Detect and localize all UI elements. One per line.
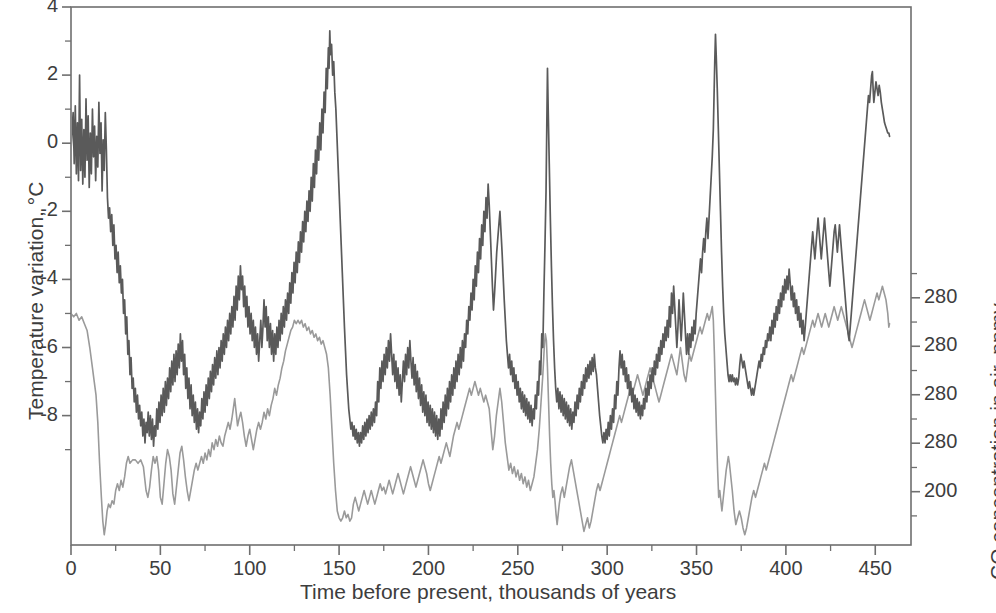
x-tick-label: 100 — [220, 557, 280, 580]
y-tick-label-left: -2 — [18, 198, 58, 221]
y-tick-label-right: 200 — [924, 479, 976, 502]
plot-area — [0, 0, 996, 613]
y-tick-label-left: 0 — [18, 130, 58, 153]
climate-chart-figure: Temperature variation, °C CO2 concentrat… — [0, 0, 996, 613]
x-tick-label: 450 — [845, 557, 905, 580]
y-tick-label-left: -6 — [18, 335, 58, 358]
y-tick-label-right: 280 — [924, 333, 976, 356]
y-tick-label-left: -8 — [18, 403, 58, 426]
y-tick-label-right: 280 — [924, 285, 976, 308]
x-tick-label: 300 — [577, 557, 637, 580]
x-tick-label: 350 — [667, 557, 727, 580]
x-tick-label: 200 — [398, 557, 458, 580]
y-tick-label-right: 280 — [924, 382, 976, 405]
x-tick-label: 0 — [41, 557, 101, 580]
y-axis-right-title-text: CO2 concentration in air, ppmv — [986, 303, 996, 580]
y-tick-label-right: 280 — [924, 430, 976, 453]
x-tick-label: 400 — [756, 557, 816, 580]
temperature-series-line — [71, 31, 890, 446]
x-tick-label: 50 — [130, 557, 190, 580]
x-axis-title: Time before present, thousands of years — [300, 580, 676, 604]
x-tick-label: 150 — [309, 557, 369, 580]
x-tick-label: 250 — [488, 557, 548, 580]
y-tick-label-left: 4 — [18, 0, 58, 17]
y-tick-label-left: 2 — [18, 62, 58, 85]
y-tick-label-left: -4 — [18, 266, 58, 289]
